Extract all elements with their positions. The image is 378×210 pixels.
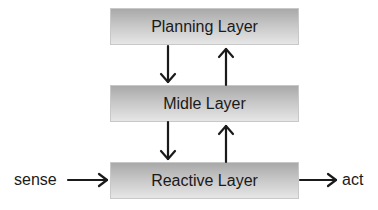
arrows-layer	[0, 0, 378, 210]
arrow-right-icon	[68, 174, 107, 186]
arrow-up-icon	[219, 49, 233, 85]
arrow-right-icon	[300, 174, 336, 186]
arrow-down-icon	[161, 46, 175, 82]
arrow-down-icon	[161, 122, 175, 159]
arrow-up-icon	[219, 126, 233, 162]
